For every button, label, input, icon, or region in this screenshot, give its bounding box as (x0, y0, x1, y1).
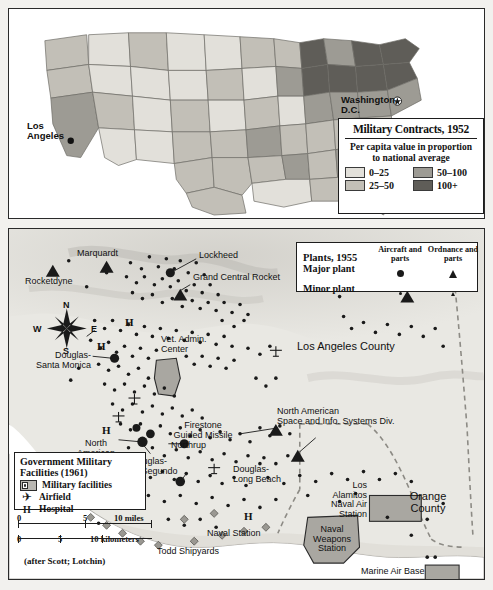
map-credit: (after Scott; Lotchin) (24, 556, 105, 566)
scale-bar-kilometers: 0 5 10 kilometers (18, 535, 170, 556)
label-naval-station: Naval Station (207, 529, 261, 539)
contracts-legend-subtitle: Per capita value in proportion to nation… (345, 142, 477, 163)
label-north-american-space-info: North American Space and Info. Systems D… (277, 407, 394, 426)
label-lockheed: Lockheed (199, 251, 238, 261)
label-los-angeles-county: Los Angeles County (297, 341, 395, 353)
label-los-angeles: Los Angeles (27, 121, 64, 142)
major-aircraft-symbol (375, 263, 425, 283)
label-firestone-guided-missile: Firestone Guided Missile (157, 421, 249, 440)
major-ordnance-symbol (425, 263, 481, 283)
gov-legend-label-hospital: Hospital (39, 504, 73, 514)
swatch-label-50-100: 50–100 (437, 167, 467, 178)
plants-legend-col-ordnance: Ordnance and parts (425, 246, 481, 263)
label-northrup: Northrup (171, 441, 206, 451)
plants-legend-row-major: Major plant (303, 263, 375, 276)
legend-class-25-50: 25–50 (345, 180, 409, 191)
minor-ordnance-symbol (425, 283, 481, 303)
swatch-100plus (413, 180, 433, 191)
gov-legend-label-military-facilities: Military facilities (42, 480, 112, 490)
label-grand-central-rocket: Grand Central Rocket (193, 273, 280, 283)
gov-legend-label-airfield: Airfield (39, 492, 71, 502)
legend-divider (345, 138, 477, 139)
label-douglas-long-beach: Douglas- Long Beach (233, 465, 281, 484)
label-marquardt: Marquardt (77, 249, 118, 259)
legend-class-0-25: 0–25 (345, 167, 409, 178)
hospital-marker-5: H (244, 511, 253, 523)
government-facilities-legend: Government Military Facilities (1961) Mi… (14, 452, 146, 510)
airfield-icon: ✈ (20, 492, 34, 502)
label-rocketdyne: Rocketdyne (25, 277, 73, 287)
scale-bar-miles: 0 5 10 miles (18, 514, 170, 535)
plants-legend-col-aircraft: Aircraft and parts (375, 246, 425, 263)
label-naval-weapons-station: Naval Weapons Station (303, 525, 361, 554)
label-orange-county: Orange County (397, 491, 459, 515)
minor-aircraft-symbol (375, 283, 425, 303)
swatch-label-100plus: 100+ (437, 180, 458, 191)
contracts-legend-title: Military Contracts, 1952 (345, 123, 477, 135)
label-washington-dc: Washington, D.C. (341, 95, 398, 116)
swatch-label-0-25: 0–25 (369, 167, 389, 178)
miles-unit-label: 10 miles (114, 513, 144, 523)
compass-north-label: N (63, 301, 70, 311)
legend-class-50-100: 50–100 (413, 167, 477, 178)
gov-legend-title: Government Military Facilities (1961) (20, 456, 140, 478)
swatch-25-50 (345, 180, 365, 191)
label-vet-admin-center: Vet. Admin. Center (161, 335, 207, 354)
swatch-label-25-50: 25–50 (369, 180, 394, 191)
los-angeles-marker (68, 138, 74, 144)
gov-legend-item-airfield: ✈ Airfield (20, 492, 140, 502)
plants-legend: Plants, 1955 Aircraft and parts Ordnance… (296, 242, 478, 292)
hospital-marker-2: H (97, 341, 106, 353)
label-douglas-santa-monica: Douglas- Santa Monica (17, 351, 91, 370)
label-marine-air-base: Marine Air Base (361, 567, 425, 577)
contracts-legend-swatches: 0–25 50–100 25–50 100+ (345, 167, 477, 191)
swatch-0-25 (345, 167, 365, 178)
plants-legend-title: Plants, 1955 (303, 252, 375, 263)
legend-class-100plus: 100+ (413, 180, 477, 191)
gov-legend-item-military-facilities: Military facilities (20, 480, 140, 491)
figure-root: Washington, D.C. Los Angeles Military Co… (0, 0, 493, 590)
scale-bars: 0 5 10 miles 0 5 10 kilometers (18, 514, 170, 556)
label-los-alamitos-naval-air-station: Los Alamitos Naval Air Station (297, 481, 367, 520)
contracts-legend: Military Contracts, 1952 Per capita valu… (338, 118, 484, 214)
plants-legend-row-minor: Minor plant (303, 283, 375, 296)
compass-east-label: E (91, 325, 97, 335)
swatch-50-100 (413, 167, 433, 178)
hospital-marker-1: H (125, 317, 134, 329)
compass-west-label: W (33, 325, 42, 335)
military-facility-icon (20, 480, 37, 491)
hospital-marker-3: H (102, 425, 111, 437)
